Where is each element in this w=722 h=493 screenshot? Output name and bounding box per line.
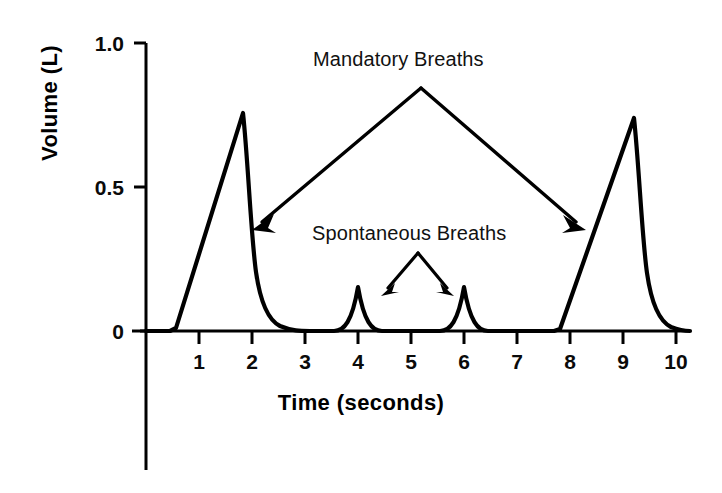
chart-canvas (0, 0, 722, 493)
y-tick-label-0: 0 (62, 321, 124, 342)
chart-figure: 1.0 0.5 0 1 2 3 4 5 6 7 8 9 10 Time (sec… (0, 0, 722, 493)
x-tick-label-8: 8 (550, 351, 590, 372)
x-tick-label-6: 6 (444, 351, 484, 372)
y-axis-title: Volume (L) (37, 45, 62, 161)
y-axis-ticks (132, 43, 146, 331)
y-tick-label-05: 0.5 (62, 177, 124, 198)
y-tick-label-1: 1.0 (62, 33, 124, 54)
mandatory-breaths-arrows (252, 88, 586, 233)
annotation-mandatory-breaths: Mandatory Breaths (313, 48, 484, 71)
x-tick-label-7: 7 (497, 351, 537, 372)
annotation-spontaneous-breaths: Spontaneous Breaths (312, 222, 506, 245)
x-tick-label-10: 10 (654, 351, 698, 372)
x-tick-label-9: 9 (603, 351, 643, 372)
x-axis-title: Time (seconds) (0, 390, 722, 416)
y-axis-title-wrapper: Volume (L) (37, 0, 63, 213)
x-tick-label-1: 1 (179, 351, 219, 372)
spontaneous-breaths-arrows (381, 253, 454, 296)
x-tick-label-5: 5 (391, 351, 431, 372)
x-tick-label-2: 2 (232, 351, 272, 372)
x-tick-label-3: 3 (285, 351, 325, 372)
x-tick-label-4: 4 (338, 351, 378, 372)
